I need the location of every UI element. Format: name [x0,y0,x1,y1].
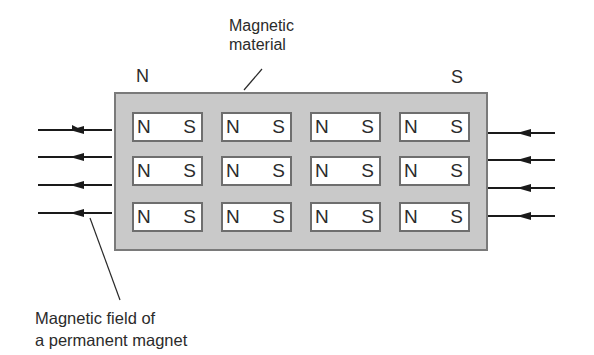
field-arrow-right-side-icon [488,156,555,164]
field-arrow-right-side-icon [488,212,555,220]
magnetic-field-label-line1: Magnetic field of [35,307,187,329]
field-arrow-left-icon [38,181,112,189]
field-arrow-right-side-icon [488,184,555,192]
field-arrow-left-icon [38,153,112,161]
field-arrow-left-icon [38,209,112,217]
material-leader-line [244,69,262,90]
field-arrow-left-icon [38,125,112,134]
magnetic-field-label: Magnetic field of a permanent magnet [35,307,187,351]
field-arrow-right-side-icon [488,129,555,137]
field-leader-line [90,218,120,300]
magnetic-field-label-line2: a permanent magnet [35,329,187,351]
field-lines-overlay [0,0,594,355]
